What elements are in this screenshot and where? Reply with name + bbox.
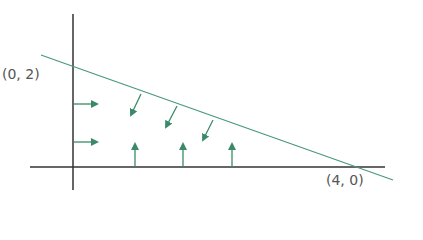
arrow-down-left-icon bbox=[203, 120, 213, 140]
y-intercept-label: (0, 2) bbox=[2, 66, 40, 82]
bottom-edge-arrows bbox=[135, 144, 232, 167]
arrow-down-left-icon bbox=[166, 106, 177, 127]
x-intercept-label: (4, 0) bbox=[326, 172, 364, 188]
left-edge-arrows bbox=[74, 104, 97, 142]
boundary-line bbox=[41, 55, 393, 180]
arrow-down-left-icon bbox=[131, 94, 141, 115]
